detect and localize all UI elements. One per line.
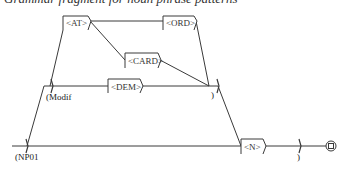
svg-text:<ORD>: <ORD> bbox=[166, 18, 195, 28]
svg-text:<DEM>: <DEM> bbox=[111, 82, 141, 92]
box-card[interactable]: <CARD> bbox=[125, 53, 163, 68]
label-modif-open: (Modif bbox=[46, 92, 72, 102]
box-ord[interactable]: <ORD> bbox=[163, 16, 197, 30]
svg-text:<CARD>: <CARD> bbox=[128, 56, 163, 66]
edge-np01-to-modif bbox=[27, 86, 44, 146]
box-n[interactable]: <N> bbox=[241, 139, 266, 154]
svg-text:<AT>: <AT> bbox=[66, 18, 87, 28]
svg-text:<N>: <N> bbox=[244, 142, 261, 152]
box-at[interactable]: <AT> bbox=[63, 16, 91, 30]
edge-at-to-card bbox=[90, 21, 125, 60]
edge-ord-to-close bbox=[196, 21, 209, 86]
label-modif-close: ) bbox=[211, 90, 214, 100]
edge-modif-to-at bbox=[50, 30, 63, 86]
label-np01-open: (NP01 bbox=[15, 152, 39, 162]
grammar-graph: <AT> <ORD> <CARD> <DEM> <N> (NP01 (Modif… bbox=[0, 0, 348, 184]
final-state-icon bbox=[326, 141, 336, 151]
label-np01-close: ) bbox=[297, 152, 300, 162]
edge-close-to-n bbox=[218, 86, 241, 146]
edge-card-to-close bbox=[160, 60, 209, 86]
box-dem[interactable]: <DEM> bbox=[108, 79, 143, 93]
